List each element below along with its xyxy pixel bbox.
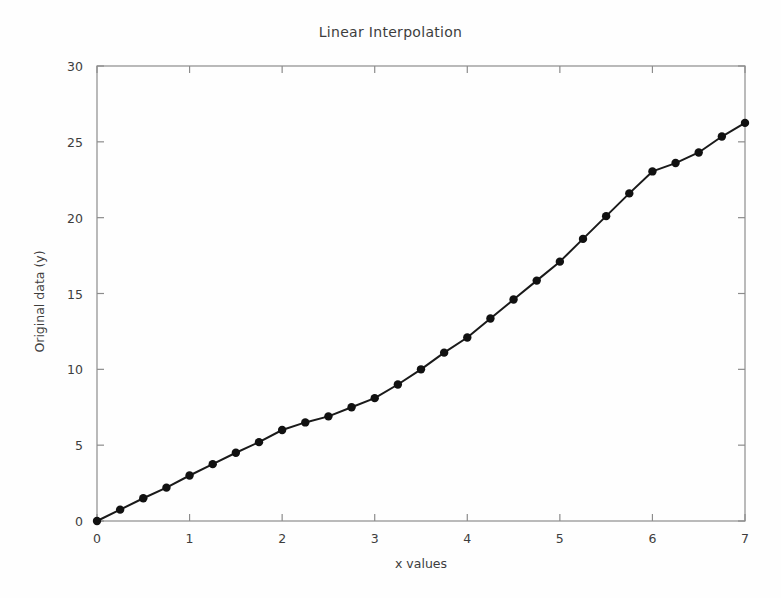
data-point-marker	[209, 460, 217, 468]
data-point-marker	[324, 412, 332, 420]
data-point-marker	[301, 418, 309, 426]
x-tick-label: 0	[93, 531, 101, 546]
x-tick-label: 7	[741, 531, 749, 546]
data-point-marker	[579, 235, 587, 243]
data-point-marker	[671, 159, 679, 167]
data-point-marker	[648, 167, 656, 175]
y-tick-label: 10	[39, 362, 83, 377]
data-point-marker	[347, 403, 355, 411]
data-point-marker	[162, 483, 170, 491]
data-point-marker	[232, 449, 240, 457]
data-point-marker	[556, 257, 564, 265]
x-tick-label: 6	[648, 531, 656, 546]
axes-frame	[97, 66, 745, 521]
y-tick-label: 20	[39, 210, 83, 225]
chart-figure: Linear Interpolation Original data (y) x…	[0, 0, 781, 598]
data-point-marker	[741, 119, 749, 127]
data-point-marker	[371, 394, 379, 402]
y-tick-label: 15	[39, 286, 83, 301]
data-point-marker	[116, 505, 124, 513]
y-axis-ticks	[97, 66, 745, 521]
x-tick-label: 3	[371, 531, 379, 546]
data-point-marker	[185, 471, 193, 479]
data-point-marker	[533, 276, 541, 284]
x-tick-label: 5	[556, 531, 564, 546]
data-point-marker	[718, 132, 726, 140]
y-tick-label: 30	[39, 59, 83, 74]
data-point-marker	[602, 212, 610, 220]
y-tick-label: 0	[39, 514, 83, 529]
data-point-marker	[417, 365, 425, 373]
y-tick-label: 25	[39, 134, 83, 149]
y-tick-label: 5	[39, 438, 83, 453]
x-tick-label: 4	[463, 531, 471, 546]
data-point-marker	[486, 314, 494, 322]
x-tick-label: 1	[186, 531, 194, 546]
data-point-marker	[440, 348, 448, 356]
data-point-marker	[93, 517, 101, 525]
x-axis-label: x values	[97, 556, 745, 571]
x-tick-label: 2	[278, 531, 286, 546]
data-point-marker	[394, 380, 402, 388]
data-point-markers	[93, 119, 749, 526]
data-point-marker	[255, 438, 263, 446]
data-point-marker	[278, 426, 286, 434]
data-point-marker	[695, 148, 703, 156]
x-axis-ticks	[97, 66, 745, 521]
data-line	[97, 123, 745, 521]
data-point-marker	[625, 189, 633, 197]
plot-canvas	[0, 0, 781, 598]
data-point-marker	[509, 295, 517, 303]
data-point-marker	[139, 494, 147, 502]
data-point-marker	[463, 333, 471, 341]
